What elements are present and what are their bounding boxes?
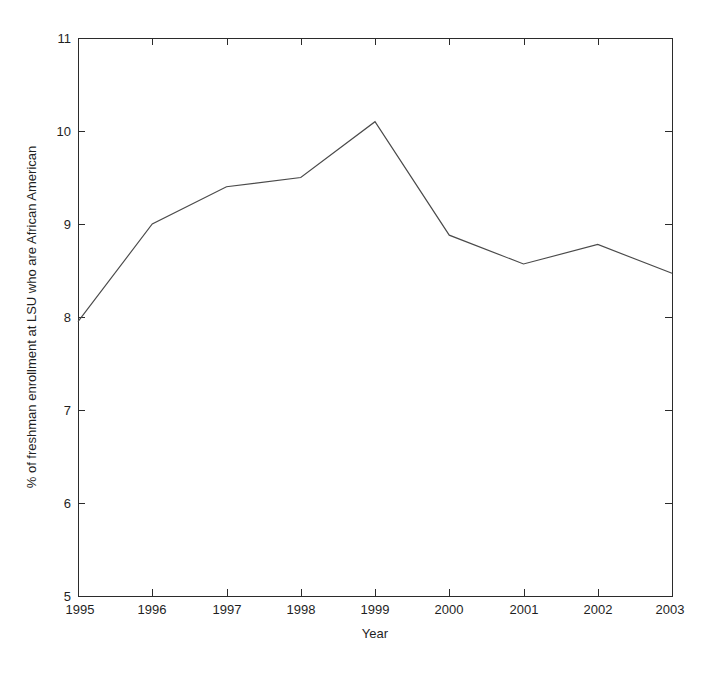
x-tick-label: 1997 bbox=[213, 602, 242, 617]
x-tick-label: 1995 bbox=[66, 602, 95, 617]
line-chart-canvas: 5 6 7 8 9 10 11 1995 1996 1997 1998 1999… bbox=[0, 0, 717, 681]
x-tick-label: 2001 bbox=[510, 602, 539, 617]
x-tick-label: 1998 bbox=[287, 602, 316, 617]
y-tick-label: 8 bbox=[64, 310, 71, 325]
x-tick-label: 1999 bbox=[361, 602, 390, 617]
x-axis-tick-labels: 1995 1996 1997 1998 1999 2000 2001 2002 … bbox=[66, 602, 685, 617]
data-series-line bbox=[78, 122, 672, 322]
x-tick-label: 2003 bbox=[656, 602, 685, 617]
y-axis-tick-labels: 5 6 7 8 9 10 11 bbox=[57, 31, 71, 604]
y-tick-label: 7 bbox=[64, 403, 71, 418]
x-tick-label: 2000 bbox=[435, 602, 464, 617]
x-axis-title: Year bbox=[362, 626, 389, 641]
y-axis-title: % of freshman enrollment at LSU who are … bbox=[24, 146, 39, 489]
x-tick-label: 1996 bbox=[138, 602, 167, 617]
y-tick-label: 11 bbox=[58, 31, 72, 46]
x-tick-label: 2002 bbox=[584, 602, 613, 617]
chart-figure: 5 6 7 8 9 10 11 1995 1996 1997 1998 1999… bbox=[0, 0, 717, 681]
y-tick-label: 10 bbox=[57, 124, 71, 139]
y-tick-label: 9 bbox=[64, 217, 71, 232]
y-tick-label: 6 bbox=[64, 496, 71, 511]
